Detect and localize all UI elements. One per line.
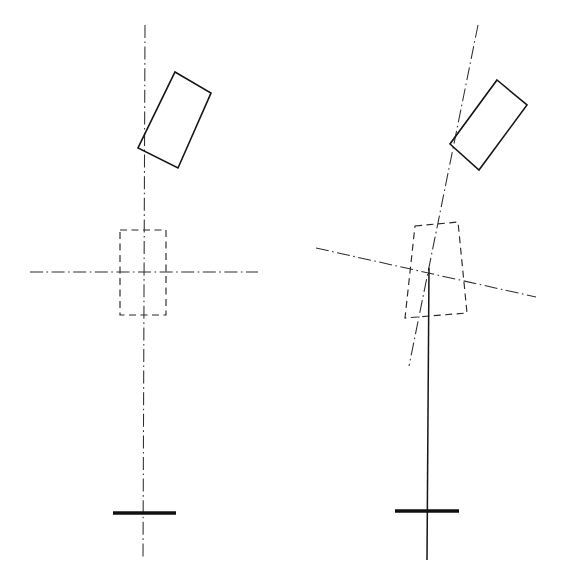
right-view-group [316, 25, 536, 560]
right-view-tilted-centerline [409, 25, 478, 366]
technical-drawing [0, 0, 568, 575]
left-view-vertical-centerline [143, 25, 145, 560]
right-view-horizontal-centerline [316, 248, 536, 297]
right-view-dashed-hub-rectangle [405, 222, 467, 318]
right-view-tilted-solid-block [450, 80, 527, 170]
right-view-vertical-solid-rod [427, 268, 429, 560]
diagram-canvas [0, 0, 568, 575]
left-view-group [30, 25, 258, 560]
left-view-tilted-solid-block [138, 72, 211, 168]
